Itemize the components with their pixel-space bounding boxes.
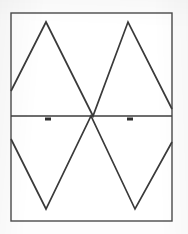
cursor-marker-right[interactable] [127, 118, 133, 121]
waveform-figure [0, 0, 188, 234]
waveform-canvas[interactable] [0, 0, 188, 234]
cursor-marker-left[interactable] [45, 118, 51, 121]
